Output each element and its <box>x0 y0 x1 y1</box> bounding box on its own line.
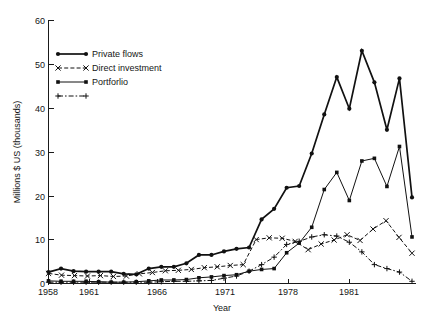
filled-circle-marker-icon <box>259 217 263 221</box>
filled-circle-marker-icon <box>56 52 60 56</box>
cross-x-marker-icon <box>383 218 388 223</box>
filled-square-marker-icon <box>322 188 326 192</box>
plus-marker-icon <box>108 279 113 284</box>
filled-square-marker-icon <box>385 185 389 189</box>
filled-circle-marker-icon <box>385 128 389 132</box>
legend-item[interactable]: Direct investment <box>55 63 162 73</box>
cross-x-marker-icon <box>319 241 324 246</box>
cross-x-marker-icon <box>332 237 337 242</box>
filled-circle-marker-icon <box>285 186 289 190</box>
legend-item[interactable] <box>55 93 88 98</box>
plus-marker-icon <box>209 278 214 283</box>
cross-x-marker-icon <box>370 226 375 231</box>
axes-group <box>49 20 417 284</box>
legend-label: Private flows <box>92 49 144 59</box>
filled-circle-marker-icon <box>109 270 113 274</box>
filled-circle-marker-icon <box>397 76 401 80</box>
series-line <box>49 221 413 277</box>
plus-marker-icon <box>347 240 352 245</box>
filled-circle-marker-icon <box>335 75 339 79</box>
data-series <box>46 218 415 279</box>
legend-item[interactable]: Private flows <box>56 49 144 59</box>
plus-marker-icon <box>196 278 201 283</box>
filled-circle-marker-icon <box>197 253 201 257</box>
x-tick-label: 1966 <box>147 287 167 297</box>
y-axis-title: Millions $ US (thousands) <box>12 101 22 204</box>
filled-square-marker-icon <box>56 80 60 84</box>
cross-x-marker-icon <box>396 235 401 240</box>
filled-circle-marker-icon <box>372 80 376 84</box>
legend-label: Portforlio <box>92 77 128 87</box>
filled-circle-marker-icon <box>172 265 176 269</box>
data-series <box>47 145 414 284</box>
filled-circle-marker-icon <box>184 261 188 265</box>
plus-marker-icon <box>55 93 60 98</box>
filled-circle-marker-icon <box>322 112 326 116</box>
filled-circle-marker-icon <box>247 245 251 249</box>
x-tick-label: 1978 <box>278 287 298 297</box>
plus-marker-icon <box>121 279 126 284</box>
filled-square-marker-icon <box>410 235 414 239</box>
plus-marker-icon <box>46 279 51 284</box>
line-chart-canvas: 60 50 40 30 20 10 0 1958 1961 1966 1971 <box>0 0 423 322</box>
x-tick-label: 1971 <box>215 287 235 297</box>
plus-marker-icon <box>58 279 63 284</box>
filled-circle-marker-icon <box>272 207 276 211</box>
plus-marker-icon <box>259 262 264 267</box>
filled-square-marker-icon <box>360 159 364 163</box>
filled-circle-marker-icon <box>71 269 75 273</box>
plus-marker-icon <box>71 279 76 284</box>
filled-circle-marker-icon <box>222 249 226 253</box>
filled-square-marker-icon <box>398 145 402 149</box>
plus-marker-icon <box>322 232 327 237</box>
legend-label: Direct investment <box>92 63 162 73</box>
legend-item[interactable]: Portforlio <box>56 77 128 87</box>
filled-circle-marker-icon <box>59 266 63 270</box>
y-tick-label: 10 <box>35 235 45 245</box>
y-tick-label: 30 <box>35 148 45 158</box>
filled-circle-marker-icon <box>310 151 314 155</box>
y-axis-ticks: 60 50 40 30 20 10 0 <box>35 16 54 289</box>
x-tick-label: 1961 <box>79 287 99 297</box>
filled-square-marker-icon <box>348 199 352 203</box>
chart-legend: Private flowsDirect investmentPortforlio <box>55 49 162 98</box>
y-tick-label: 50 <box>35 60 45 70</box>
series-line <box>49 146 413 282</box>
filled-square-marker-icon <box>272 267 276 271</box>
filled-circle-marker-icon <box>347 107 351 111</box>
filled-square-marker-icon <box>260 268 264 272</box>
y-tick-label: 60 <box>35 16 45 26</box>
filled-square-marker-icon <box>335 171 339 175</box>
filled-square-marker-icon <box>310 225 314 229</box>
filled-circle-marker-icon <box>84 52 88 56</box>
cross-x-marker-icon <box>409 251 414 256</box>
filled-circle-marker-icon <box>360 49 364 53</box>
filled-circle-marker-icon <box>297 184 301 188</box>
filled-square-marker-icon <box>373 157 377 161</box>
plus-marker-icon <box>134 279 139 284</box>
cross-x-marker-icon <box>344 232 349 237</box>
plus-marker-icon <box>309 234 314 239</box>
x-axis-title: Year <box>213 303 231 313</box>
plus-marker-icon <box>397 269 402 274</box>
filled-square-marker-icon <box>84 80 88 84</box>
plus-marker-icon <box>384 266 389 271</box>
plus-marker-icon <box>372 262 377 267</box>
cross-x-marker-icon <box>357 238 362 243</box>
x-tick-label: 1981 <box>339 287 359 297</box>
plus-marker-icon <box>83 279 88 284</box>
filled-circle-marker-icon <box>84 270 88 274</box>
plus-marker-icon <box>96 279 101 284</box>
y-tick-label: 40 <box>35 104 45 114</box>
filled-circle-marker-icon <box>234 247 238 251</box>
x-tick-label: 1958 <box>38 287 58 297</box>
filled-circle-marker-icon <box>209 253 213 257</box>
filled-square-marker-icon <box>285 251 289 255</box>
filled-circle-marker-icon <box>410 195 414 199</box>
plus-marker-icon <box>246 269 251 274</box>
y-tick-label: 20 <box>35 192 45 202</box>
chart-figure: 60 50 40 30 20 10 0 1958 1961 1966 1971 <box>0 0 423 322</box>
cross-x-marker-icon <box>306 247 311 252</box>
plus-marker-icon <box>83 93 88 98</box>
